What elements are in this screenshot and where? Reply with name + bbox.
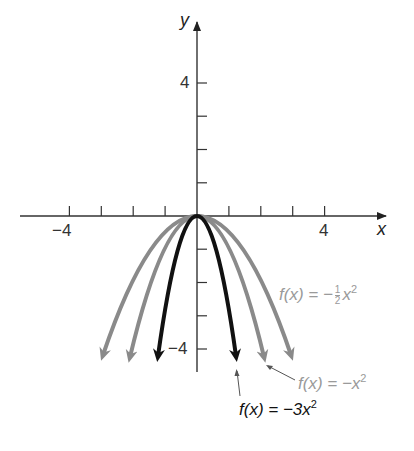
x-tick-label-neg4: −4 bbox=[52, 221, 71, 241]
label-3x-squared: f(x) = −3x2 bbox=[239, 398, 317, 420]
x-axis-label: x bbox=[377, 219, 386, 240]
fraction-one-half: 12 bbox=[335, 285, 341, 306]
y-tick-label-neg4: −4 bbox=[168, 339, 187, 359]
curve-3x-squared-right bbox=[197, 216, 236, 356]
leader-x-squared bbox=[268, 366, 295, 380]
label-half-x-squared: f(x) = −12x2 bbox=[279, 283, 357, 306]
curve-x-squared-right bbox=[197, 216, 264, 357]
y-axis-label: y bbox=[180, 10, 189, 31]
x-tick-label-4: 4 bbox=[319, 221, 328, 241]
curve-3x-squared-left bbox=[158, 216, 197, 356]
label-x-squared: f(x) = −x2 bbox=[298, 372, 366, 394]
eq-half-prefix: f(x) = − bbox=[279, 285, 333, 304]
y-tick-label-4: 4 bbox=[180, 73, 189, 93]
curve-x-squared-left bbox=[130, 216, 197, 357]
